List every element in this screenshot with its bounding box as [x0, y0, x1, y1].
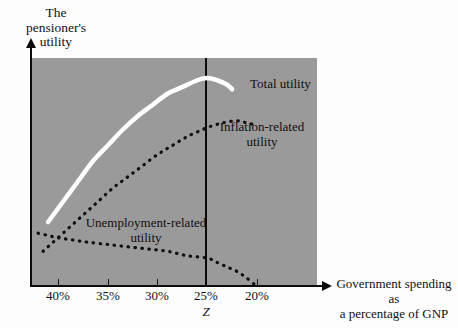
- x-axis-label: Government spending as a percentage of G…: [330, 276, 458, 321]
- x-tick-label-20: 20%: [245, 288, 269, 304]
- vertical-marker-label: Z: [202, 304, 209, 320]
- inflation-related-utility-label: Inflation-related utility: [213, 120, 311, 149]
- x-tick-mark-30: [157, 279, 158, 286]
- x-tick-label-25: 25%: [194, 288, 218, 304]
- unemployment-related-utility-label: Unemployment-related utility: [84, 216, 208, 245]
- y-axis-label: The pensioner's utility: [6, 6, 106, 50]
- vertical-marker-line: [205, 58, 207, 286]
- x-axis-line: [30, 285, 324, 287]
- total-utility-label: Total utility: [250, 77, 311, 92]
- chart-figure: The pensioner's utility Government spend…: [0, 0, 458, 328]
- x-tick-label-40: 40%: [46, 288, 70, 304]
- x-tick-mark-40: [58, 279, 59, 286]
- y-axis-line: [30, 46, 32, 286]
- x-tick-mark-20: [257, 279, 258, 286]
- x-tick-label-30: 30%: [145, 288, 169, 304]
- plot-area: [32, 58, 317, 285]
- x-tick-mark-35: [108, 279, 109, 286]
- x-tick-label-35: 35%: [96, 288, 120, 304]
